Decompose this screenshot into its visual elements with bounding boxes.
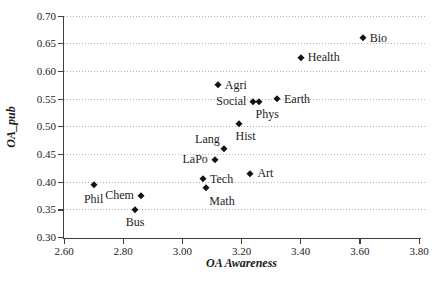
y-tick (58, 99, 63, 100)
data-point-math (202, 184, 210, 192)
x-axis-title: OA Awareness (64, 256, 419, 271)
data-point-health (297, 54, 305, 62)
y-tick (58, 154, 63, 155)
y-tick (58, 43, 63, 44)
y-tick (58, 237, 63, 238)
data-point-agri (214, 81, 222, 89)
y-tick-label: 0.40 (24, 176, 56, 189)
y-tick-label: 0.35 (24, 203, 56, 216)
data-point-label-bio: Bio (370, 31, 387, 46)
y-tick-label: 0.45 (24, 148, 56, 161)
x-tick (359, 239, 360, 244)
data-point-lang (220, 145, 228, 153)
data-point-bio (359, 34, 367, 42)
gridline (64, 154, 425, 155)
x-tick-label: 2.60 (47, 245, 81, 258)
gridline (64, 71, 425, 72)
data-point-label-hist: Hist (236, 129, 256, 144)
data-point-label-phys: Phys (256, 107, 279, 122)
data-point-label-math: Math (209, 194, 234, 209)
gridline (64, 209, 425, 210)
x-tick-label: 3.80 (402, 245, 436, 258)
y-tick-label: 0.60 (24, 65, 56, 78)
gridline (64, 126, 425, 127)
data-point-chem (137, 192, 145, 200)
data-point-label-art: Art (257, 166, 273, 181)
data-point-label-chem: Chem (105, 188, 134, 203)
x-tick-label: 2.80 (106, 245, 140, 258)
data-point-label-agri: Agri (225, 78, 247, 93)
data-point-label-phil: Phil (84, 192, 103, 207)
gridline (64, 16, 425, 17)
data-point-label-lapo: LaPo (183, 152, 208, 167)
y-tick (58, 16, 63, 17)
x-tick (182, 239, 183, 244)
scatter-chart: OA_pub OA Awareness 0.700.650.600.550.50… (0, 0, 447, 281)
y-tick (58, 182, 63, 183)
x-tick (64, 239, 65, 244)
data-point-label-earth: Earth (284, 92, 310, 107)
data-point-bus (131, 206, 139, 214)
data-point-art (247, 170, 255, 178)
x-tick (241, 239, 242, 244)
data-point-earth (273, 95, 281, 103)
x-tick-label: 3.40 (284, 245, 318, 258)
y-tick (58, 71, 63, 72)
gridline (64, 182, 425, 183)
y-tick-label: 0.50 (24, 120, 56, 133)
x-tick-label: 3.00 (165, 245, 199, 258)
x-tick (419, 239, 420, 244)
y-tick-label: 0.70 (24, 10, 56, 23)
y-tick (58, 209, 63, 210)
data-point-label-tech: Tech (210, 172, 233, 187)
y-tick-label: 0.30 (24, 231, 56, 244)
x-tick (123, 239, 124, 244)
y-tick (58, 126, 63, 127)
data-point-label-bus: Bus (126, 215, 145, 230)
x-tick (300, 239, 301, 244)
x-tick-label: 3.20 (225, 245, 259, 258)
y-axis-line (63, 16, 64, 239)
data-point-label-lang: Lang (195, 132, 220, 147)
x-tick-label: 3.60 (343, 245, 377, 258)
data-point-label-health: Health (308, 50, 340, 65)
y-tick-label: 0.65 (24, 37, 56, 50)
data-point-label-social: Social (216, 94, 246, 109)
y-tick-label: 0.55 (24, 93, 56, 106)
data-point-lapo (211, 156, 219, 164)
y-axis-title: OA_pub (4, 106, 19, 147)
